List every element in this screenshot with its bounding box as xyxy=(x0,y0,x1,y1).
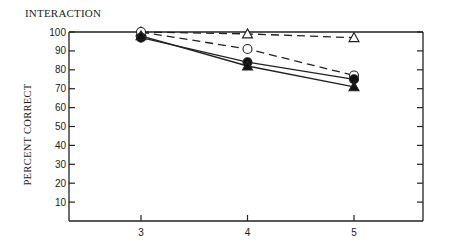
line-chart: 102030405060708090100345PERCENT CORRECT xyxy=(0,0,449,251)
y-tick-label: 50 xyxy=(55,121,67,132)
y-tick-label: 30 xyxy=(55,159,67,170)
y-tick-label: 60 xyxy=(55,102,67,113)
y-tick-label: 100 xyxy=(49,27,66,38)
x-tick-label: 5 xyxy=(351,227,357,238)
y-tick-label: 80 xyxy=(55,64,67,75)
open-circle-marker xyxy=(243,45,252,54)
y-tick-label: 40 xyxy=(55,140,67,151)
y-axis-label: PERCENT CORRECT xyxy=(22,83,33,185)
y-tick-label: 10 xyxy=(55,197,67,208)
axes: 102030405060708090100345PERCENT CORRECT xyxy=(22,27,423,239)
y-tick-label: 20 xyxy=(55,178,67,189)
y-tick-label: 90 xyxy=(55,45,67,56)
y-tick-label: 70 xyxy=(55,83,67,94)
x-tick-label: 3 xyxy=(138,227,144,238)
x-tick-label: 4 xyxy=(245,227,251,238)
